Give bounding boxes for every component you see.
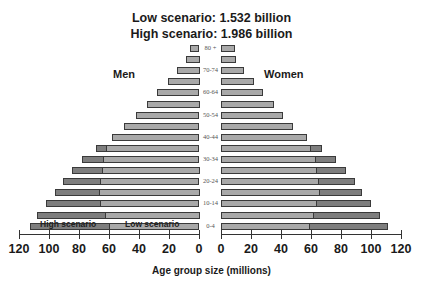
chart-title-low: Low scenario: 1.532 billion [0, 11, 423, 25]
right-axis-tick-label: 60 [296, 242, 326, 256]
women-low-bar [221, 89, 263, 96]
right-axis-tick [341, 230, 342, 239]
left-axis-tick [109, 230, 110, 239]
men-low-bar [99, 189, 200, 196]
men-low-bar [100, 178, 199, 185]
left-axis-tick-label: 120 [4, 242, 34, 256]
men-high-bar [82, 156, 104, 163]
right-axis-tick [221, 230, 222, 239]
age-group-label: 80 + [200, 44, 221, 52]
age-group-label: 40-44 [200, 133, 221, 141]
women-label: Women [264, 68, 304, 80]
men-label: Men [113, 68, 135, 80]
men-high-bar [37, 212, 106, 219]
men-high-bar [55, 189, 100, 196]
right-axis-tick-label: 20 [236, 242, 266, 256]
women-high-bar [319, 189, 362, 196]
right-axis-tick [311, 230, 312, 239]
men-low-bar [190, 45, 199, 52]
age-group-label: 20-24 [200, 177, 221, 185]
age-group-label: 50-54 [200, 111, 221, 119]
women-high-bar [309, 223, 388, 230]
men-low-bar [186, 56, 200, 63]
women-high-bar [313, 212, 380, 219]
women-high-bar [316, 200, 371, 207]
women-low-bar [221, 45, 235, 52]
left-axis-tick-label: 40 [124, 242, 154, 256]
left-axis-tick [49, 230, 50, 239]
women-high-bar [318, 178, 355, 185]
men-low-bar [106, 145, 199, 152]
men-high-bar [46, 200, 101, 207]
right-axis-tick-label: 40 [266, 242, 296, 256]
men-high-bar [72, 167, 103, 174]
men-low-bar [112, 134, 199, 141]
men-low-bar [177, 67, 200, 74]
women-low-bar [221, 145, 311, 152]
right-axis-tick-label: 100 [356, 242, 386, 256]
right-axis-tick-label: 120 [386, 242, 416, 256]
women-low-bar [221, 178, 319, 185]
left-axis-tick [199, 230, 200, 239]
men-low-bar [103, 156, 199, 163]
men-low-bar [147, 101, 200, 108]
men-low-bar [136, 112, 199, 119]
men-low-bar [124, 123, 199, 130]
women-high-bar [315, 156, 336, 163]
men-low-bar [105, 212, 200, 219]
left-axis-tick-label: 100 [34, 242, 64, 256]
left-axis-tick [169, 230, 170, 239]
right-axis-tick [281, 230, 282, 239]
men-low-bar [100, 200, 199, 207]
right-axis-tick-label: 0 [206, 242, 236, 256]
men-low-bar [168, 78, 200, 85]
left-axis-tick [139, 230, 140, 239]
age-group-label: 70-74 [200, 66, 221, 74]
legend-low-scenario: Low scenario [125, 220, 179, 229]
right-axis-tick-label: 80 [326, 242, 356, 256]
women-low-bar [221, 134, 307, 141]
chart-title-high: High scenario: 1.986 billion [0, 27, 423, 41]
right-axis-tick [371, 230, 372, 239]
men-low-bar [157, 89, 199, 96]
women-low-bar [221, 167, 317, 174]
women-low-bar [221, 189, 320, 196]
women-low-bar [221, 78, 254, 85]
left-axis-tick-label: 60 [94, 242, 124, 256]
age-group-label: 30-34 [200, 155, 221, 163]
left-axis-tick [19, 230, 20, 239]
women-low-bar [221, 200, 317, 207]
age-group-label: 10-14 [200, 199, 221, 207]
women-high-bar [316, 167, 346, 174]
right-axis-tick [401, 230, 402, 239]
right-axis-tick [251, 230, 252, 239]
women-low-bar [221, 101, 274, 108]
women-low-bar [221, 223, 310, 230]
women-low-bar [221, 112, 283, 119]
age-group-label: 0-4 [200, 222, 221, 230]
women-low-bar [221, 56, 236, 63]
left-axis-tick-label: 80 [64, 242, 94, 256]
age-group-label: 60-64 [200, 88, 221, 96]
women-low-bar [221, 212, 314, 219]
legend-high-scenario: High scenario [40, 220, 96, 229]
women-low-bar [221, 156, 316, 163]
women-high-bar [310, 145, 322, 152]
x-axis-label: Age group size (millions) [0, 265, 423, 276]
left-axis-tick [79, 230, 80, 239]
men-low-bar [102, 167, 200, 174]
left-axis-tick-label: 20 [154, 242, 184, 256]
women-low-bar [221, 123, 293, 130]
women-low-bar [221, 67, 244, 74]
men-high-bar [63, 178, 102, 185]
